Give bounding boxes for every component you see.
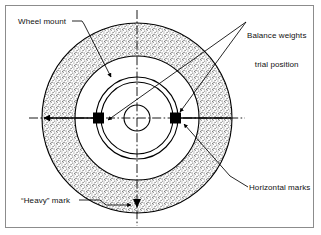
balance-weight-left: [93, 113, 104, 124]
label-wheel-mount: Wheel mount: [18, 17, 66, 27]
label-balance-weights-line1: Balance weights: [247, 31, 306, 41]
diagram-page: Wheel mount Balance weights trial positi…: [0, 0, 321, 235]
label-balance-weights: Balance weights trial position: [247, 12, 306, 88]
balance-weight-right: [170, 113, 181, 124]
label-horizontal-marks: Horizontal marks: [249, 183, 310, 193]
label-heavy-mark: “Heavy” mark: [21, 196, 70, 206]
label-balance-weights-line2: trial position: [247, 60, 306, 70]
